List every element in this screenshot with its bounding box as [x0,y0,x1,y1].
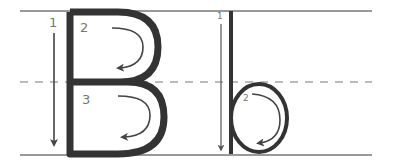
stroke-3-curve-arrow [118,96,150,137]
stroke-number-2-small: 2 [243,93,249,103]
stroke-number-1-small: 1 [217,11,223,21]
stroke-number-1: 1 [49,15,57,30]
letter-tracing-worksheet: 1 2 3 1 2 [0,0,395,167]
stroke-2-circle-arrow [252,94,280,143]
stroke-number-2: 2 [80,20,88,35]
stroke-number-3: 3 [82,92,90,107]
stroke-2-curve-arrow [112,28,143,68]
